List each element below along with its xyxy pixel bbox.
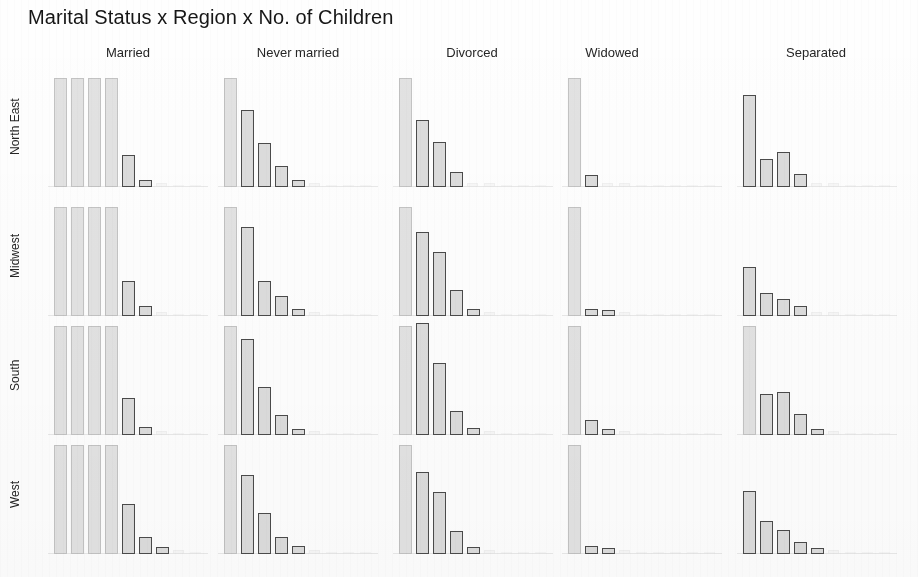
bar [241, 475, 254, 554]
panel-midwest-never-married [218, 196, 378, 316]
bar [399, 207, 412, 316]
bar [416, 323, 429, 435]
bar [704, 552, 715, 554]
bar [501, 552, 512, 554]
bar [326, 552, 337, 554]
bar [777, 530, 790, 554]
bar [309, 183, 320, 187]
bar [535, 185, 546, 187]
panel-west-widowed [562, 434, 722, 554]
bar [743, 491, 756, 554]
page-title: Marital Status x Region x No. of Childre… [28, 6, 393, 29]
bar [105, 207, 118, 316]
bar [275, 415, 288, 435]
bar [450, 411, 463, 435]
column-header-never-married: Never married [218, 45, 378, 60]
panel-midwest-widowed [562, 196, 722, 316]
panel-north-east-separated [737, 67, 897, 187]
bar [794, 174, 807, 187]
bar [258, 513, 271, 554]
bar [760, 394, 773, 435]
bar [71, 445, 84, 554]
panel-north-east-never-married [218, 67, 378, 187]
bar [416, 232, 429, 316]
bar [275, 296, 288, 316]
bar [122, 504, 135, 554]
bar [416, 120, 429, 187]
panel-north-east-widowed [562, 67, 722, 187]
panel-north-east-divorced [393, 67, 553, 187]
bar [139, 180, 152, 187]
bar [224, 445, 237, 554]
bar [71, 207, 84, 316]
column-header-widowed: Widowed [532, 45, 692, 60]
bar [467, 547, 480, 554]
bar [275, 537, 288, 554]
bar [670, 552, 681, 554]
bar [416, 472, 429, 554]
panel-south-married [48, 315, 208, 435]
row-label-south: South [6, 315, 24, 435]
bar [845, 185, 856, 187]
bar [326, 185, 337, 187]
bar [811, 183, 822, 187]
bar [258, 387, 271, 435]
bar [743, 267, 756, 316]
bar [687, 552, 698, 554]
chart-canvas: Marital Status x Region x No. of Childre… [0, 0, 918, 577]
bar [743, 326, 756, 435]
bar [501, 185, 512, 187]
bar [828, 550, 839, 554]
bar [862, 552, 873, 554]
bar [105, 326, 118, 435]
panel-south-never-married [218, 315, 378, 435]
bar [619, 183, 630, 187]
bar [585, 546, 598, 554]
bar [862, 185, 873, 187]
bar [568, 78, 581, 187]
bar [636, 185, 647, 187]
bar [54, 207, 67, 316]
bar [71, 78, 84, 187]
bar [467, 183, 478, 187]
panel-west-separated [737, 434, 897, 554]
bar [71, 326, 84, 435]
bar [190, 552, 201, 554]
bar [156, 183, 167, 187]
bar [173, 185, 184, 187]
bar [636, 552, 647, 554]
bar [568, 445, 581, 554]
panel-west-divorced [393, 434, 553, 554]
bar [585, 175, 598, 187]
bar [670, 185, 681, 187]
bar [433, 363, 446, 435]
bar [450, 531, 463, 554]
bar [602, 183, 613, 187]
bar [88, 207, 101, 316]
bar [360, 185, 371, 187]
bar [309, 550, 320, 554]
bar [275, 166, 288, 187]
bar [292, 180, 305, 187]
bar [258, 281, 271, 316]
column-header-separated: Separated [736, 45, 896, 60]
column-header-married: Married [48, 45, 208, 60]
bar [224, 207, 237, 316]
bar [845, 552, 856, 554]
bar [777, 152, 790, 187]
panel-west-never-married [218, 434, 378, 554]
bar [122, 398, 135, 435]
bar [518, 185, 529, 187]
bar [653, 185, 664, 187]
bar [653, 552, 664, 554]
bar [602, 548, 615, 554]
bar [241, 227, 254, 316]
bar [54, 445, 67, 554]
bar [105, 445, 118, 554]
bar [794, 414, 807, 435]
panel-midwest-divorced [393, 196, 553, 316]
bar [105, 78, 118, 187]
bar [399, 78, 412, 187]
bar [190, 185, 201, 187]
bar [88, 445, 101, 554]
